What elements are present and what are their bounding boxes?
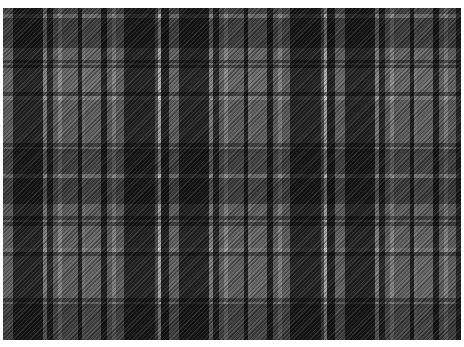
image-canvas bbox=[0, 0, 464, 347]
twill-texture bbox=[3, 8, 461, 340]
tartan-fabric bbox=[3, 8, 461, 340]
